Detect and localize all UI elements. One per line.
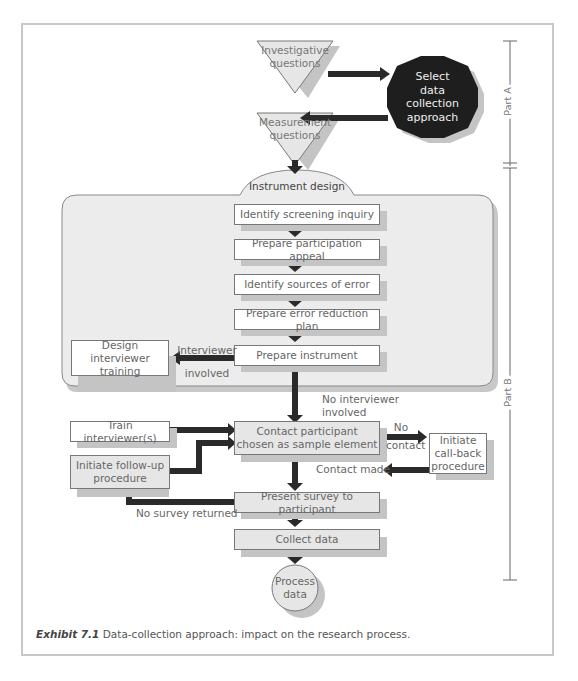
interviewer-involved-label: Interviewer involved [177,344,237,380]
step-prepare-instrument: Prepare instrument [234,345,380,366]
step-identify-screening-inquiry: Identify screening inquiry [234,204,380,225]
investigative-questions-label: Investigative questions [250,44,340,70]
part-a-label: Part A [502,84,513,118]
step-prepare-participation-appeal: Prepare participation appeal [234,239,380,260]
no-contact-label: No contact [386,421,416,452]
measurement-questions-label: Measurement questions [250,116,340,142]
no-interviewer-involved-label: No interviewer involved [322,393,399,419]
instrument-design-title: Instrument design [240,180,354,193]
part-b-bracket [503,168,517,580]
no-survey-returned-label: No survey returned [136,507,238,520]
initiate-follow-up-box: Initiate follow-up procedure [70,455,170,489]
step-identify-sources-of-error: Identify sources of error [234,274,380,295]
collect-data-box: Collect data [234,529,380,550]
contact-participant-box: Contact participant chosen as sample ele… [234,421,380,455]
select-approach-label: Select data collection approach [387,70,478,124]
contact-made-label: Contact made [316,463,390,476]
initiate-callback-box: Initiate call-back procedure [429,433,487,474]
exhibit-label: Exhibit 7.1 [36,628,99,640]
part-b-label: Part B [502,375,513,409]
process-data-label: Process data [272,575,318,601]
train-interviewers-box: Train interviewer(s) [70,421,170,442]
present-survey-box: Present survey to participant [234,492,380,513]
exhibit-caption: Exhibit 7.1 Data-collection approach: im… [36,628,410,640]
design-interviewer-training-box: Design interviewer training [71,340,169,376]
exhibit-caption-text: Data-collection approach: impact on the … [99,628,410,640]
step-prepare-error-reduction-plan: Prepare error reduction plan [234,309,380,330]
